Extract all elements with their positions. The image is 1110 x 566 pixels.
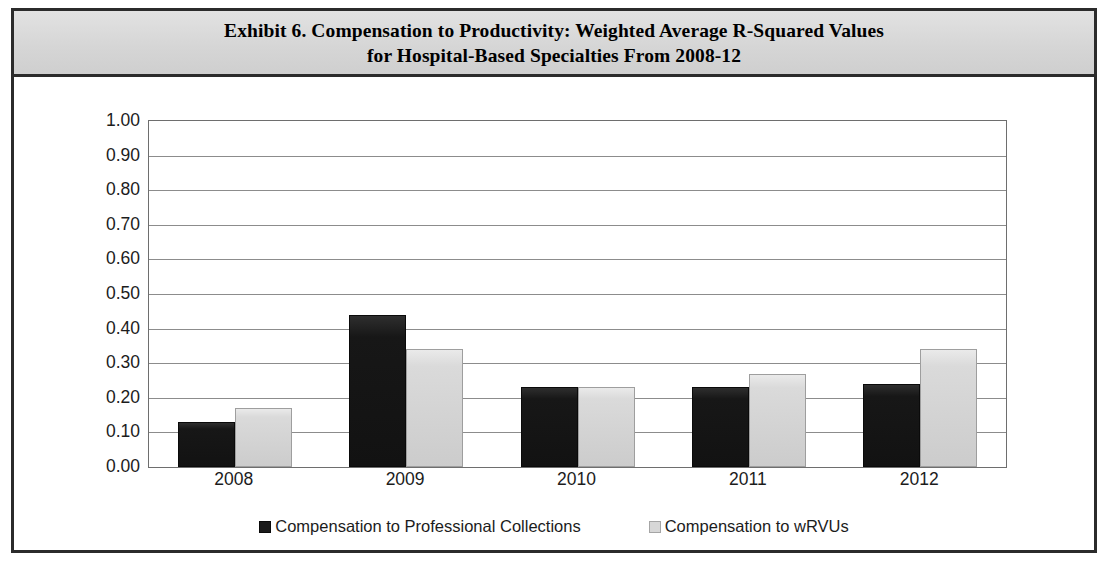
y-tick-label: 0.90 <box>20 144 140 165</box>
bar-2010-series-2 <box>578 387 635 467</box>
bar-2009-series-1 <box>349 315 406 467</box>
chart-figure: Exhibit 6. Compensation to Productivity:… <box>11 8 1097 553</box>
y-tick-label: 0.00 <box>20 456 140 477</box>
x-tick-label-2012: 2012 <box>900 469 939 490</box>
legend-swatch-icon <box>259 521 271 533</box>
legend-swatch-icon <box>649 521 661 533</box>
chart-title-band: Exhibit 6. Compensation to Productivity:… <box>14 11 1094 77</box>
plot-area <box>148 120 1007 468</box>
y-tick-label: 0.40 <box>20 317 140 338</box>
y-tick-label: 0.20 <box>20 386 140 407</box>
legend-item-1: Compensation to Professional Collections <box>259 517 580 536</box>
y-tick-label: 0.50 <box>20 283 140 304</box>
y-tick-label: 0.70 <box>20 213 140 234</box>
bars-layer <box>149 121 1006 467</box>
y-tick-label: 1.00 <box>20 110 140 131</box>
page-title: Exhibit 6. Compensation to Productivity:… <box>184 18 924 68</box>
bar-2009-series-2 <box>406 349 463 467</box>
legend-item-2: Compensation to wRVUs <box>649 517 849 536</box>
y-tick-label: 0.60 <box>20 248 140 269</box>
x-tick-label-2010: 2010 <box>557 469 596 490</box>
bar-2011-series-2 <box>749 374 806 467</box>
bar-2012-series-1 <box>863 384 920 467</box>
bar-2010-series-1 <box>521 387 578 467</box>
y-tick-label: 0.30 <box>20 352 140 373</box>
bar-2011-series-1 <box>692 387 749 467</box>
x-axis-labels: 20082009201020112012 <box>148 469 1005 499</box>
chart-legend: Compensation to Professional Collections… <box>14 517 1094 536</box>
x-tick-label-2009: 2009 <box>386 469 425 490</box>
bar-2008-series-2 <box>235 408 292 467</box>
bar-2012-series-2 <box>920 349 977 467</box>
x-tick-label-2008: 2008 <box>214 469 253 490</box>
title-line-2: for Hospital-Based Specialties From 2008… <box>224 43 884 68</box>
x-tick-label-2011: 2011 <box>729 469 767 490</box>
bar-2008-series-1 <box>178 422 235 467</box>
legend-label: Compensation to wRVUs <box>665 517 849 536</box>
y-tick-label: 0.80 <box>20 179 140 200</box>
title-line-1: Exhibit 6. Compensation to Productivity:… <box>224 18 884 43</box>
y-axis-labels: 1.000.900.800.700.600.500.400.300.200.10… <box>14 120 140 466</box>
y-tick-label: 0.10 <box>20 421 140 442</box>
plot-wrapper: 1.000.900.800.700.600.500.400.300.200.10… <box>14 77 1094 550</box>
legend-label: Compensation to Professional Collections <box>275 517 580 536</box>
